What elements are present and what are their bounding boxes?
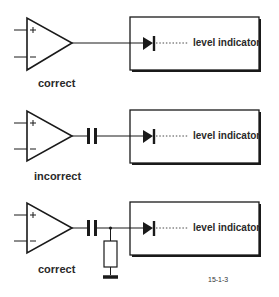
resistor-icon — [104, 241, 117, 267]
verdict-label-2: incorrect — [34, 170, 81, 182]
verdict-label-3: correct — [38, 263, 75, 275]
opamp-2-triangle-icon — [27, 111, 72, 161]
indicator-label-1: level indicator — [193, 37, 260, 48]
opamp-1-triangle-icon — [27, 18, 72, 70]
verdict-label-1: correct — [38, 77, 75, 89]
indicator-label-3: level indicator — [193, 222, 260, 233]
capacitor-2-icon — [89, 220, 96, 236]
figure-id: 15-1-3 — [208, 276, 228, 283]
opamp-3-triangle-icon — [27, 203, 72, 253]
capacitor-1-icon — [89, 128, 96, 144]
indicator-label-2: level indicator — [193, 130, 260, 141]
